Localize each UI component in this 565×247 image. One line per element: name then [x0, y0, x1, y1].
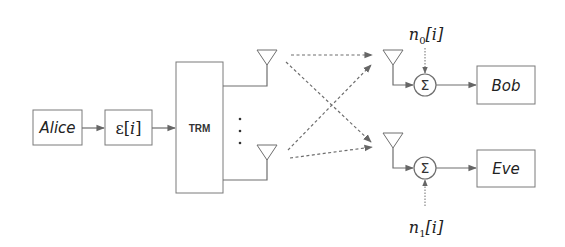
- rx-bob-to-sum-line: [393, 65, 413, 85]
- tx-antenna-bottom-icon: [257, 145, 277, 160]
- block-diagram: Alice ε[i] TRM Σ Σ: [0, 0, 565, 247]
- trm-block: TRM: [176, 62, 223, 193]
- sum-bob: Σ: [414, 74, 436, 96]
- ellipsis-dots: [239, 118, 242, 145]
- epsilon-label: ε[i]: [116, 119, 142, 138]
- noise-n1-label: n1[i]: [409, 218, 444, 239]
- eve-label: Eve: [492, 160, 520, 178]
- trm-to-tx-top-line: [223, 64, 267, 86]
- bob-label: Bob: [492, 77, 521, 95]
- epsilon-block: ε[i]: [105, 110, 152, 145]
- channel-top-to-eve: [286, 62, 371, 142]
- eve-block: Eve: [477, 150, 535, 187]
- sum-eve: Σ: [414, 157, 436, 179]
- trm-to-tx-bottom-line: [223, 159, 267, 180]
- alice-block: Alice: [33, 110, 82, 145]
- trm-label: TRM: [189, 123, 211, 134]
- channel-bottom-to-bob: [288, 65, 371, 150]
- rx-antenna-eve-icon: [383, 133, 403, 148]
- sigma-icon: Σ: [421, 160, 430, 176]
- bob-block: Bob: [477, 66, 535, 104]
- noise-n0-label: n0[i]: [409, 25, 444, 46]
- alice-label: Alice: [38, 119, 75, 137]
- rx-eve-to-sum-line: [393, 148, 413, 168]
- sigma-icon: Σ: [421, 77, 430, 93]
- rx-antenna-bob-icon: [383, 50, 403, 65]
- tx-antenna-top-icon: [257, 50, 277, 65]
- channel-bottom-to-eve: [290, 147, 372, 158]
